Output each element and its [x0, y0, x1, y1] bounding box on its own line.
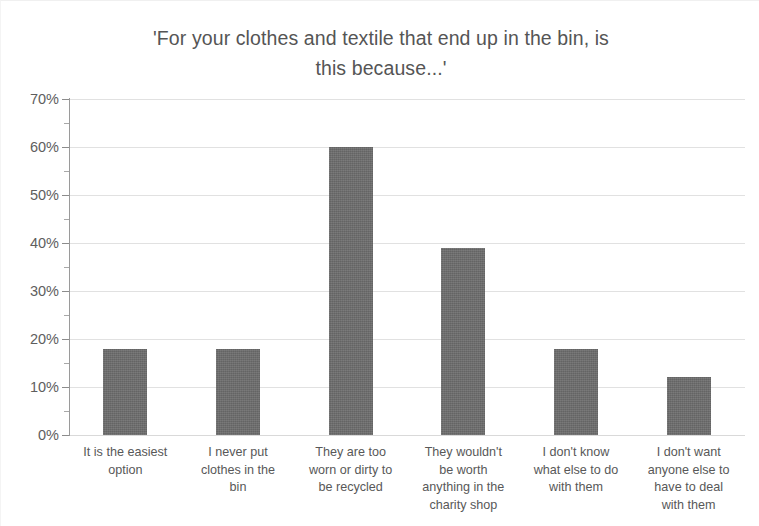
- y-axis-tick-label: 20%: [7, 331, 59, 347]
- y-axis-tick-major: [62, 195, 69, 196]
- y-axis-tick-label: 70%: [7, 91, 59, 107]
- bar[interactable]: [329, 147, 373, 435]
- y-axis-tick-label: 50%: [7, 187, 59, 203]
- bar-slot: [520, 99, 633, 435]
- y-axis-tick-label: 0%: [7, 427, 59, 443]
- bar[interactable]: [216, 349, 260, 435]
- y-axis-labels-group: 70%60%50%40%30%20%10%0%: [1, 1, 59, 526]
- y-axis-tick-major: [62, 147, 69, 148]
- bar[interactable]: [667, 377, 711, 435]
- x-axis-tick-label: I don't want anyone else to have to deal…: [632, 444, 745, 514]
- bar-slot: [407, 99, 520, 435]
- gridline: [69, 435, 745, 436]
- bar-chart-figure: 'For your clothes and textile that end u…: [0, 0, 759, 526]
- y-axis-tick-label: 40%: [7, 235, 59, 251]
- x-axis-tick-label: They wouldn't be worth anything in the c…: [407, 444, 520, 514]
- y-axis-tick-major: [62, 291, 69, 292]
- y-axis-tick-major: [62, 339, 69, 340]
- chart-title: 'For your clothes and textile that end u…: [61, 23, 701, 83]
- bar[interactable]: [103, 349, 147, 435]
- y-axis-tick-label: 30%: [7, 283, 59, 299]
- bar[interactable]: [554, 349, 598, 435]
- x-axis-labels-group: It is the easiest optionI never put clot…: [69, 444, 745, 524]
- bar-slot: [294, 99, 407, 435]
- y-axis-tick-label: 60%: [7, 139, 59, 155]
- y-axis-tick-major: [62, 435, 69, 436]
- x-axis-tick-label: I never put clothes in the bin: [182, 444, 295, 497]
- x-axis-tick-label: They are too worn or dirty to be recycle…: [294, 444, 407, 497]
- bar-slot: [632, 99, 745, 435]
- bars-group: [69, 99, 745, 435]
- bar-slot: [182, 99, 295, 435]
- x-axis-tick-label: I don't know what else to do with them: [520, 444, 633, 497]
- y-axis-tick-major: [62, 387, 69, 388]
- y-axis-tick-major: [62, 243, 69, 244]
- y-axis-tick-major: [62, 99, 69, 100]
- x-axis-tick-label: It is the easiest option: [69, 444, 182, 479]
- y-axis-tick-label: 10%: [7, 379, 59, 395]
- bar-slot: [69, 99, 182, 435]
- bar[interactable]: [441, 248, 485, 435]
